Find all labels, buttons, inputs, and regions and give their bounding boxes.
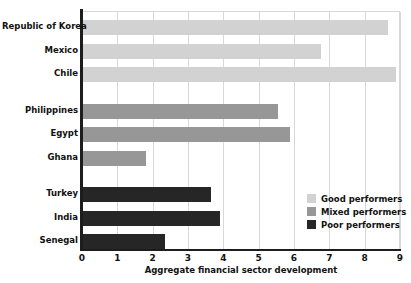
- bar-row: [82, 44, 400, 59]
- legend-item-poor[interactable]: Poor performers: [307, 218, 405, 231]
- legend-swatch-icon-poor: [307, 220, 316, 229]
- legend-label-mixed: Mixed performers: [321, 207, 406, 217]
- bar-philippines[interactable]: [82, 104, 278, 119]
- y-axis-line: [80, 9, 83, 251]
- category-label-egypt: Egypt: [2, 126, 78, 141]
- bar-senegal[interactable]: [82, 234, 165, 249]
- category-label-india: India: [2, 210, 78, 225]
- x-tick-4: 4: [213, 253, 233, 263]
- bar-row: [82, 234, 400, 249]
- bar-egypt[interactable]: [82, 127, 290, 142]
- bar-row: [82, 104, 400, 119]
- category-axis-labels: Republic of KoreaMexicoChilePhilippinesE…: [0, 11, 78, 249]
- legend-label-poor: Poor performers: [321, 220, 400, 230]
- x-tick-3: 3: [178, 253, 198, 263]
- x-tick-5: 5: [249, 253, 269, 263]
- legend: Good performersMixed performersPoor perf…: [307, 192, 405, 231]
- bar-chile[interactable]: [82, 67, 396, 82]
- category-label-mexico: Mexico: [2, 43, 78, 58]
- legend-item-mixed[interactable]: Mixed performers: [307, 205, 405, 218]
- legend-swatch-icon-good: [307, 194, 316, 203]
- bar-chart: Republic of KoreaMexicoChilePhilippinesE…: [0, 0, 411, 283]
- bar-turkey[interactable]: [82, 187, 211, 202]
- category-label-turkey: Turkey: [2, 186, 78, 201]
- bar-row: [82, 67, 400, 82]
- x-tick-9: 9: [390, 253, 410, 263]
- legend-item-good[interactable]: Good performers: [307, 192, 405, 205]
- legend-swatch-icon-mixed: [307, 207, 316, 216]
- category-label-philippines: Philippines: [2, 103, 78, 118]
- category-label-senegal: Senegal: [2, 233, 78, 248]
- x-axis-line: [80, 249, 401, 251]
- x-tick-1: 1: [107, 253, 127, 263]
- x-tick-8: 8: [355, 253, 375, 263]
- x-tick-7: 7: [319, 253, 339, 263]
- bar-ghana[interactable]: [82, 151, 146, 166]
- x-tick-0: 0: [72, 253, 92, 263]
- bar-india[interactable]: [82, 211, 220, 226]
- x-axis-title: Aggregate financial sector development: [82, 265, 400, 275]
- category-label-chile: Chile: [2, 66, 78, 81]
- category-label-republic-of-korea: Republic of Korea: [2, 19, 78, 34]
- x-tick-6: 6: [284, 253, 304, 263]
- bar-republic-of-korea[interactable]: [82, 20, 388, 35]
- bar-row: [82, 151, 400, 166]
- bar-mexico[interactable]: [82, 44, 321, 59]
- bar-row: [82, 127, 400, 142]
- bar-row: [82, 20, 400, 35]
- category-label-ghana: Ghana: [2, 150, 78, 165]
- legend-label-good: Good performers: [321, 194, 402, 204]
- x-tick-2: 2: [143, 253, 163, 263]
